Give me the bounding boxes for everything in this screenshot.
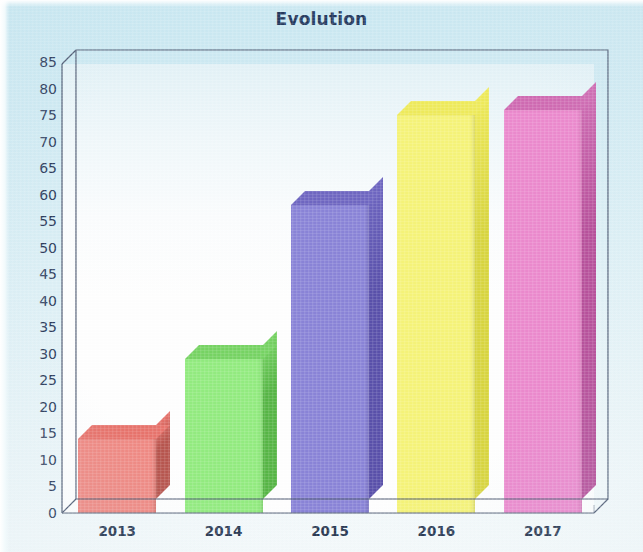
- y-axis-tick-label: 10: [17, 453, 57, 467]
- bar-2017[interactable]: [504, 110, 582, 513]
- y-axis-tick-label: 85: [17, 55, 57, 69]
- y-axis-tick-label: 70: [17, 135, 57, 149]
- x-axis-label-2014: 2014: [179, 523, 269, 539]
- chart-container: Evolution 858075706560555045403530252015…: [0, 0, 643, 552]
- x-axis-label-2015: 2015: [285, 523, 375, 539]
- chart-title: Evolution: [0, 9, 643, 29]
- y-axis-tick-label: 50: [17, 241, 57, 255]
- bar-top-face: [504, 96, 582, 110]
- bar-front-face: [397, 115, 475, 513]
- y-axis-tick-label: 15: [17, 426, 57, 440]
- bar-series: [0, 0, 643, 552]
- bar-top-face: [78, 425, 156, 439]
- bar-top-face: [185, 345, 263, 359]
- y-axis-tick-label: 40: [17, 294, 57, 308]
- y-axis-tick-label: 75: [17, 108, 57, 122]
- y-axis-tick-label: 35: [17, 320, 57, 334]
- bar-top-face: [397, 101, 475, 115]
- bar-front-face: [504, 110, 582, 513]
- bar-2013[interactable]: [78, 439, 156, 513]
- x-axis-label-2017: 2017: [498, 523, 588, 539]
- bar-side-face: [263, 345, 277, 499]
- bar-front-face: [78, 439, 156, 513]
- y-axis-tick-label: 5: [17, 479, 57, 493]
- bar-side-face: [369, 191, 383, 499]
- bar-2015[interactable]: [291, 205, 369, 513]
- y-axis-tick-label: 25: [17, 373, 57, 387]
- y-axis-tick-label: 60: [17, 188, 57, 202]
- y-axis-tick-label: 55: [17, 214, 57, 228]
- y-axis-tick-label: 45: [17, 267, 57, 281]
- bar-top-face: [291, 191, 369, 205]
- bar-side-face: [582, 96, 596, 499]
- x-axis-label-2013: 2013: [72, 523, 162, 539]
- y-axis-tick-label: 80: [17, 82, 57, 96]
- bar-front-face: [291, 205, 369, 513]
- y-axis-tick-label: 65: [17, 161, 57, 175]
- bar-front-face: [185, 359, 263, 513]
- bar-2014[interactable]: [185, 359, 263, 513]
- y-axis-tick-label: 0: [17, 506, 57, 520]
- y-axis-tick-label: 20: [17, 400, 57, 414]
- bar-side-face: [475, 101, 489, 499]
- y-axis-tick-label: 30: [17, 347, 57, 361]
- bar-2016[interactable]: [397, 115, 475, 513]
- x-axis-label-2016: 2016: [391, 523, 481, 539]
